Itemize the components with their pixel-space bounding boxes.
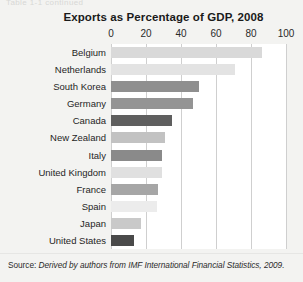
source-note: Source: Derived by authors from IMF Inte… <box>8 260 284 270</box>
bar <box>111 47 262 58</box>
x-tick-100: 100 <box>278 28 295 39</box>
divider <box>0 253 303 254</box>
category-label: France <box>76 185 106 195</box>
bar <box>111 98 193 109</box>
bar <box>111 81 199 92</box>
clipped-header-text: Table 1-1 continued <box>6 0 83 7</box>
source-label: Source: <box>8 260 36 270</box>
category-label: United Kingdom <box>38 168 106 178</box>
category-label: Netherlands <box>55 65 106 75</box>
bar <box>111 201 157 212</box>
x-tick-80: 80 <box>245 28 256 39</box>
bar <box>111 132 165 143</box>
bar <box>111 115 172 126</box>
plot-area <box>111 44 286 249</box>
chart-title: Exports as Percentage of GDP, 2008 <box>0 11 303 23</box>
category-label: United States <box>49 236 106 246</box>
x-tick-20: 20 <box>140 28 151 39</box>
category-label: Belgium <box>72 48 106 58</box>
bar <box>111 184 158 195</box>
bar <box>111 218 141 229</box>
x-tick-60: 60 <box>210 28 221 39</box>
figure-page: Table 1-1 continued Exports as Percentag… <box>0 0 303 282</box>
bar <box>111 150 162 161</box>
source-text: Derived by authors from IMF Internationa… <box>39 260 285 270</box>
category-label: New Zealand <box>50 133 106 143</box>
bar <box>111 64 235 75</box>
x-tick-40: 40 <box>175 28 186 39</box>
y-axis-category-labels: BelgiumNetherlandsSouth KoreaGermanyCana… <box>0 44 106 249</box>
x-axis-tick-labels: 020406080100 <box>0 28 303 41</box>
category-label: Italy <box>89 151 106 161</box>
category-label: South Korea <box>53 82 106 92</box>
category-label: Spain <box>82 202 106 212</box>
category-label: Japan <box>80 219 106 229</box>
x-tick-0: 0 <box>108 28 114 39</box>
gridline <box>286 44 287 249</box>
bar <box>111 167 162 178</box>
chart-title-text: Exports as Percentage of GDP, 2008 <box>63 11 263 23</box>
bar <box>111 235 134 246</box>
category-label: Germany <box>67 99 106 109</box>
category-label: Canada <box>73 116 106 126</box>
gridline <box>251 44 252 249</box>
